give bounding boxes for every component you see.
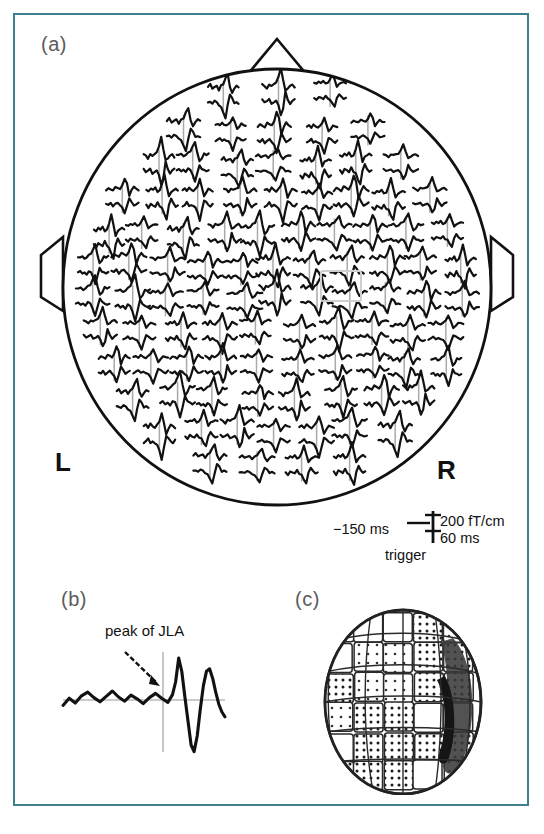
scalebar: −150 ms 200 fT/cm 60 ms trigger <box>333 509 523 571</box>
scalebar-amplitude-label: 200 fT/cm <box>440 513 504 529</box>
scalebar-duration-label: 60 ms <box>440 530 480 546</box>
source-patch <box>325 762 354 791</box>
peak-arrowhead <box>149 675 160 686</box>
panel-b-label: (b) <box>61 588 87 611</box>
source-patch <box>383 613 412 642</box>
source-patch <box>384 761 413 790</box>
scalebar-trigger-label: trigger <box>385 547 426 563</box>
orientation-label-right: R <box>437 455 456 486</box>
peak-of-jla-label: peak of JLA <box>105 622 184 639</box>
right-ear-marker <box>491 237 513 311</box>
figure-frame: (a) L R <box>13 13 529 806</box>
source-patch <box>384 674 413 703</box>
source-patch <box>385 702 414 731</box>
orientation-label-left: L <box>55 447 71 478</box>
scalebar-time-label: −150 ms <box>333 521 389 537</box>
panel-a: (a) L R <box>15 15 531 575</box>
source-patch <box>383 644 412 673</box>
source-patch <box>384 733 413 762</box>
source-patch <box>324 734 353 763</box>
panel-c: (c) <box>285 580 525 795</box>
meg-head-map <box>15 15 531 515</box>
panel-c-label: (c) <box>295 588 320 611</box>
left-ear-marker <box>41 237 63 311</box>
jla-waveform-trace <box>63 658 225 752</box>
head-3d-source-map <box>285 580 525 795</box>
panel-b: (b) peak of JLA <box>45 580 275 780</box>
